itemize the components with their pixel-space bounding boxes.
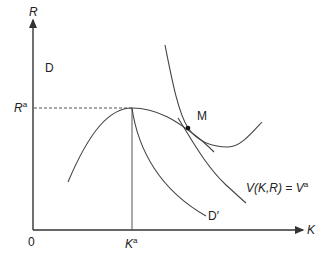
ka-label-main: K [125, 237, 133, 251]
point-m [186, 126, 191, 131]
ka-label: Ka [125, 237, 137, 250]
v-curve-label-sup: a [304, 180, 308, 189]
point-m-label: M [197, 110, 207, 122]
ra-label: Ra [14, 101, 27, 114]
d-label: D [45, 62, 54, 74]
ka-label-sup: a [133, 236, 137, 245]
d-curve [68, 108, 214, 182]
v-curve-label-main: V(K,R) = V [246, 181, 304, 195]
ra-label-main: R [14, 101, 23, 115]
diagram-canvas [0, 0, 323, 259]
d-prime-curve [132, 108, 206, 216]
v-curve [165, 45, 262, 147]
v-curve-label: V(K,R) = Va [246, 181, 308, 194]
origin-label: 0 [28, 236, 35, 248]
d-prime-label: D′ [208, 210, 219, 222]
y-axis-label: R [29, 6, 38, 18]
x-axis-label: K [307, 224, 315, 236]
ra-label-sup: a [23, 100, 27, 109]
diagram: R K 0 D Ra Ka M D′ V(K,R) = Va [0, 0, 323, 259]
